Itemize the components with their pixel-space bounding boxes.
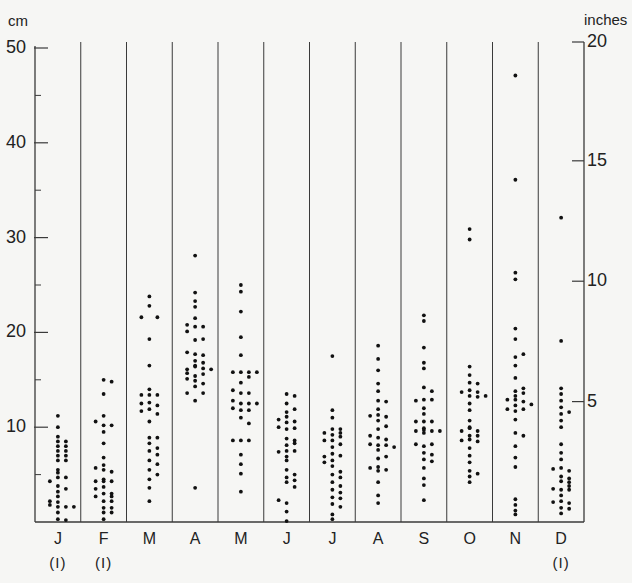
data-point xyxy=(147,337,151,341)
data-point xyxy=(277,425,281,429)
data-point xyxy=(559,451,563,455)
data-point xyxy=(376,399,380,403)
data-point xyxy=(285,455,289,459)
data-point xyxy=(231,439,235,443)
data-point xyxy=(102,485,106,489)
data-point xyxy=(468,388,472,392)
data-point xyxy=(231,388,235,392)
data-point xyxy=(110,479,114,483)
data-point xyxy=(147,441,151,445)
data-point xyxy=(468,475,472,479)
data-point xyxy=(193,254,197,258)
data-point xyxy=(239,391,243,395)
right-tick-label: 10 xyxy=(587,270,607,291)
data-point xyxy=(64,454,68,458)
data-point xyxy=(460,439,464,443)
data-point xyxy=(521,407,525,411)
data-point xyxy=(422,428,426,432)
data-point xyxy=(293,485,297,489)
data-point xyxy=(193,352,197,356)
data-point xyxy=(185,371,189,375)
data-point xyxy=(231,370,235,374)
data-point xyxy=(193,359,197,363)
data-point xyxy=(505,398,509,402)
data-point xyxy=(322,455,326,459)
data-point xyxy=(72,505,76,509)
data-point xyxy=(147,387,151,391)
data-point xyxy=(56,414,60,418)
data-point xyxy=(330,416,334,420)
data-point xyxy=(384,455,388,459)
data-point xyxy=(476,390,480,394)
data-point xyxy=(102,441,106,445)
data-point xyxy=(139,402,143,406)
data-point xyxy=(476,429,480,433)
data-point xyxy=(430,389,434,393)
data-point xyxy=(193,305,197,309)
data-point xyxy=(338,476,342,480)
data-point xyxy=(185,391,189,395)
data-point xyxy=(64,505,68,509)
data-point xyxy=(468,402,472,406)
data-point xyxy=(293,394,297,398)
data-point xyxy=(185,350,189,354)
data-point xyxy=(277,450,281,454)
data-point xyxy=(239,472,243,476)
data-point xyxy=(193,399,197,403)
data-point xyxy=(338,470,342,474)
data-point xyxy=(285,458,289,462)
data-point xyxy=(376,419,380,423)
data-point xyxy=(147,477,151,481)
data-point xyxy=(293,441,297,445)
data-point xyxy=(239,462,243,466)
data-point xyxy=(56,500,60,504)
data-point xyxy=(201,353,205,357)
data-point xyxy=(147,449,151,453)
data-point xyxy=(330,445,334,449)
data-point xyxy=(285,437,289,441)
data-point xyxy=(193,299,197,303)
data-point xyxy=(239,453,243,457)
month-sublabel: (I) xyxy=(541,554,581,571)
data-point xyxy=(110,423,114,427)
data-point xyxy=(476,395,480,399)
data-point xyxy=(384,468,388,472)
data-point xyxy=(559,386,563,390)
data-point xyxy=(102,479,106,483)
data-point xyxy=(521,352,525,356)
data-point xyxy=(468,419,472,423)
data-point xyxy=(521,386,525,390)
data-point xyxy=(384,400,388,404)
data-point xyxy=(559,339,563,343)
data-point xyxy=(513,418,517,422)
data-point xyxy=(193,374,197,378)
data-point xyxy=(102,492,106,496)
data-point xyxy=(330,439,334,443)
data-point xyxy=(330,408,334,412)
data-point xyxy=(414,420,418,424)
data-point xyxy=(155,393,159,397)
data-point xyxy=(513,444,517,448)
data-point xyxy=(368,442,372,446)
data-point xyxy=(247,370,251,374)
month-label: J xyxy=(312,530,352,548)
data-point xyxy=(559,405,563,409)
right-tick-label: 5 xyxy=(587,391,597,412)
data-point xyxy=(239,370,243,374)
data-point xyxy=(513,403,517,407)
data-point xyxy=(102,423,106,427)
data-point xyxy=(330,427,334,431)
data-point xyxy=(338,454,342,458)
data-point xyxy=(193,379,197,383)
data-point xyxy=(239,439,243,443)
data-point xyxy=(293,478,297,482)
data-point xyxy=(422,476,426,480)
data-point xyxy=(559,216,563,220)
data-point xyxy=(422,498,426,502)
data-point xyxy=(56,458,60,462)
data-point xyxy=(56,454,60,458)
data-point xyxy=(376,344,380,348)
data-point xyxy=(513,178,517,182)
data-point xyxy=(56,490,60,494)
data-point xyxy=(422,319,426,323)
